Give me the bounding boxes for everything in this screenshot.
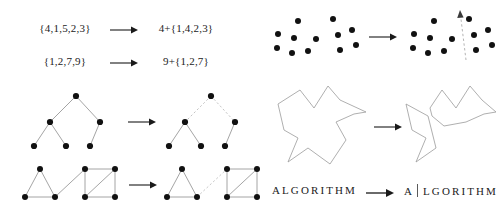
data-point (410, 45, 416, 51)
set-before-expression: {1,2,7,9} (22, 55, 108, 67)
data-point (489, 42, 495, 48)
tree-edge (185, 122, 201, 146)
data-point (291, 35, 297, 41)
tree-edge-removal-panel (28, 90, 240, 152)
dashed-separator-line (457, 10, 466, 60)
set-before-expression: {4,1,5,2,3} (22, 22, 108, 34)
data-point (485, 27, 491, 33)
set-partition-panel: {4,1,5,2,3} 4+{1,4,2,3} {1,2,7,9} 9+{1,2… (22, 22, 237, 78)
graph-node (112, 194, 118, 200)
graph-node (112, 166, 118, 172)
graph-before-graphic (22, 165, 122, 205)
point-cloud-before-graphic (268, 8, 366, 63)
tree-node (222, 143, 228, 149)
tree-after-graphic (163, 90, 263, 152)
tree-edge-cut (185, 96, 211, 122)
data-point (425, 50, 431, 56)
tree-edge (76, 96, 100, 122)
tree-edge (225, 122, 235, 146)
point-cloud-after-graphic (404, 8, 502, 63)
data-point (274, 45, 280, 51)
graph-bridge-removal-panel (22, 165, 247, 207)
graph-node (164, 194, 170, 200)
right-arrow-icon (369, 32, 397, 42)
data-point (411, 31, 417, 37)
tree-before-graphic (28, 90, 128, 152)
graph-node (179, 166, 185, 172)
graph-bridge-edge (55, 169, 85, 197)
tree-node (182, 119, 188, 125)
right-arrow-icon (128, 117, 156, 127)
graph-node (254, 194, 260, 200)
data-point (441, 48, 447, 54)
tree-node (198, 143, 204, 149)
figure-canvas: {4,1,5,2,3} 4+{1,4,2,3} {1,2,7,9} 9+{1,2… (0, 0, 502, 215)
string-after-tail: LGORITHM (423, 185, 498, 197)
graph-node (37, 166, 43, 172)
string-after-head: A (404, 185, 414, 197)
polygon-after-graphic (398, 86, 502, 168)
point-set-separation-panel (268, 8, 500, 64)
polygon-piece-right (430, 86, 496, 126)
tree-edge (50, 122, 66, 146)
graph-edge (85, 169, 115, 197)
graph-node (52, 194, 58, 200)
right-arrow-icon (110, 25, 138, 35)
string-before-text: ALGORITHM (272, 184, 357, 196)
graph-node (254, 166, 260, 172)
data-point (473, 47, 479, 53)
polygon-partition-panel (270, 86, 502, 168)
tree-edge (34, 122, 50, 146)
data-point (295, 18, 301, 24)
data-point (353, 42, 359, 48)
graph-after-graphic (164, 165, 264, 205)
graph-bridge-edge-cut (197, 169, 227, 197)
graph-node (224, 194, 230, 200)
tree-edge (90, 122, 100, 146)
tree-edge-cut (211, 96, 235, 122)
tree-node (63, 143, 69, 149)
set-partition-row: {1,2,7,9} 9+{1,2,7} (22, 55, 237, 71)
right-arrow-icon (110, 58, 138, 68)
data-point (305, 48, 311, 54)
tree-node (47, 119, 53, 125)
tree-edge (169, 122, 185, 146)
data-point (349, 27, 355, 33)
tree-node (87, 143, 93, 149)
data-point (431, 18, 437, 24)
tree-node (232, 119, 238, 125)
set-after-expression: 9+{1,2,7} (140, 55, 232, 67)
set-after-expression: 4+{1,4,2,3} (140, 22, 232, 34)
data-point (275, 31, 281, 37)
string-divider-bar (417, 184, 418, 197)
polygon-before-graphic (270, 86, 372, 168)
data-point (313, 36, 319, 42)
data-point (471, 32, 477, 38)
tree-node (73, 93, 79, 99)
data-point (330, 16, 336, 22)
graph-node (22, 194, 28, 200)
string-split-panel: ALGORITHM A LGORITHM (272, 182, 498, 202)
right-arrow-icon (366, 188, 394, 198)
graph-edge (40, 169, 55, 197)
tree-edge (50, 96, 76, 122)
polygon-outline (278, 86, 366, 164)
graph-node (82, 166, 88, 172)
data-point (427, 35, 433, 41)
graph-edge (227, 169, 257, 197)
graph-edge (167, 169, 182, 197)
data-point (289, 50, 295, 56)
data-point (449, 36, 455, 42)
right-arrow-icon (129, 180, 157, 190)
tree-node (31, 143, 37, 149)
set-partition-row: {4,1,5,2,3} 4+{1,4,2,3} (22, 22, 237, 38)
graph-edge (25, 169, 40, 197)
data-point (466, 16, 472, 22)
graph-node (82, 194, 88, 200)
graph-node (224, 166, 230, 172)
data-point (337, 47, 343, 53)
graph-node (194, 194, 200, 200)
string-after-group: A LGORITHM (404, 184, 498, 197)
tree-node (97, 119, 103, 125)
data-point (335, 32, 341, 38)
